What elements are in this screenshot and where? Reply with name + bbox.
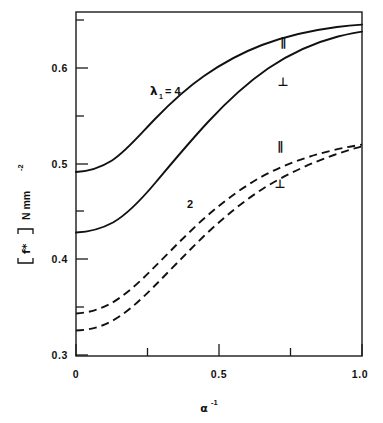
y-axis-title-units: N mm xyxy=(20,191,32,220)
curve-lambda2-parallel xyxy=(76,145,362,314)
lambda-symbol: λ xyxy=(150,84,158,98)
y-tick-label-0.6: 0.6 xyxy=(52,62,68,74)
y-axis-title-exponent: -2 xyxy=(16,164,25,171)
lambda-subscript: 1 xyxy=(159,93,163,100)
curve-lambda2-perpendicular xyxy=(76,146,362,330)
y-axis-title-inner: f* xyxy=(20,243,33,254)
plot-frame xyxy=(76,12,362,356)
x-axis-major-ticks xyxy=(76,344,362,356)
lambda-value-4: = 4 xyxy=(165,85,181,97)
y-tick-label-0.3: 0.3 xyxy=(52,349,68,361)
annotation-dashed-perpendicular: ⊥ xyxy=(275,177,286,191)
annotation-solid-perpendicular: ⊥ xyxy=(278,75,289,89)
x-tick-label-0.5: 0.5 xyxy=(211,368,227,380)
curve-lambda4-parallel xyxy=(76,25,362,172)
annotation-lambda1-equals-2: 2 xyxy=(187,198,193,210)
bracket-open xyxy=(18,258,33,263)
x-tick-label-1.0: 1.0 xyxy=(352,368,368,380)
line-chart: 0.6 0.5 0.4 0.3 0 0.5 1.0 f* N mm -2 α -… xyxy=(0,0,383,423)
annotation-solid-parallel: ∥ xyxy=(280,35,286,49)
x-axis-title: α -1 xyxy=(200,398,217,415)
x-axis-title-exponent: -1 xyxy=(211,398,218,407)
x-axis-title-base: α xyxy=(200,402,208,415)
x-tick-label-0: 0 xyxy=(73,368,79,380)
bracket-close xyxy=(18,229,33,234)
y-axis-title: f* N mm -2 xyxy=(16,164,33,263)
chart-figure: 0.6 0.5 0.4 0.3 0 0.5 1.0 f* N mm -2 α -… xyxy=(0,0,383,423)
y-tick-label-0.5: 0.5 xyxy=(52,158,68,170)
curve-lambda4-perpendicular xyxy=(76,32,362,233)
y-tick-label-0.4: 0.4 xyxy=(52,253,68,265)
annotation-dashed-parallel: ∥ xyxy=(277,139,283,153)
